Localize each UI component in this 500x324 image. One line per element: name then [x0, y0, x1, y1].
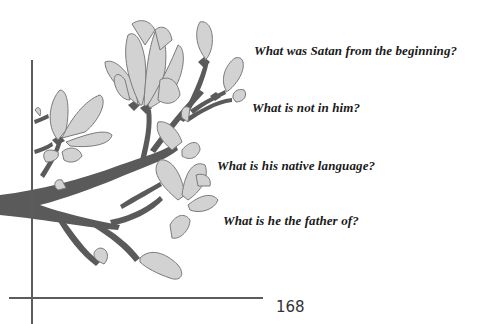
magnolia-blossom-icon — [35, 21, 246, 280]
question-4: What is he the father of? — [223, 213, 359, 229]
workbook-page: What was Satan from the beginning? What … — [0, 0, 500, 324]
magnolia-branch-illustration — [0, 0, 260, 300]
vertical-rule — [31, 60, 33, 324]
question-2: What is not in him? — [252, 100, 360, 116]
question-1: What was Satan from the beginning? — [254, 43, 457, 59]
page-number: 168 — [276, 298, 305, 316]
question-3: What is his native language? — [217, 158, 375, 174]
horizontal-rule — [9, 297, 263, 299]
